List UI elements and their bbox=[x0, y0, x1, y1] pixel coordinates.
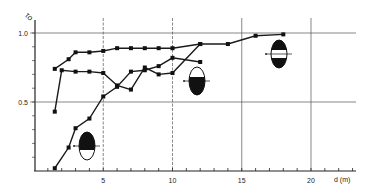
x-tick-label: 5 bbox=[101, 177, 105, 184]
data-point bbox=[101, 49, 105, 53]
data-point bbox=[74, 50, 78, 54]
chart: 51015200.51.0 τo d (m) bbox=[0, 0, 371, 195]
data-point bbox=[87, 70, 91, 74]
data-point bbox=[53, 67, 57, 71]
data-point bbox=[143, 46, 147, 50]
data-point bbox=[198, 60, 202, 64]
data-point bbox=[74, 70, 78, 74]
data-point bbox=[53, 166, 57, 170]
white-band-ellipse-icon bbox=[265, 40, 292, 72]
data-point bbox=[129, 88, 133, 92]
glyph-icons bbox=[73, 40, 292, 160]
data-point bbox=[171, 46, 175, 50]
y-tick-label: 0.5 bbox=[18, 99, 28, 106]
data-point bbox=[198, 42, 202, 46]
data-point bbox=[226, 42, 230, 46]
x-axis-label: d (m) bbox=[334, 176, 350, 184]
data-point bbox=[281, 32, 285, 36]
data-point bbox=[74, 126, 78, 130]
data-point bbox=[157, 46, 161, 50]
data-point bbox=[129, 46, 133, 50]
data-point bbox=[87, 117, 91, 121]
data-point bbox=[115, 85, 119, 89]
y-tick-label: 1.0 bbox=[18, 30, 28, 37]
data-point bbox=[101, 71, 105, 75]
data-point bbox=[60, 68, 64, 72]
data-point bbox=[143, 68, 147, 72]
x-tick-label: 20 bbox=[307, 177, 315, 184]
y-axis-label: τo bbox=[23, 11, 35, 23]
data-point bbox=[171, 71, 175, 75]
top-filled-ellipse-icon bbox=[73, 132, 100, 160]
data-point bbox=[53, 110, 57, 114]
bottom-filled-ellipse-icon bbox=[183, 67, 210, 95]
data-point bbox=[101, 94, 105, 98]
x-tick-label: 10 bbox=[169, 177, 177, 184]
data-point bbox=[254, 34, 258, 38]
x-tick-label: 15 bbox=[238, 177, 246, 184]
tick-labels: 51015200.51.0 bbox=[18, 30, 315, 185]
data-point bbox=[157, 72, 161, 76]
data-point bbox=[87, 50, 91, 54]
data-point bbox=[115, 46, 119, 50]
series-line-2 bbox=[55, 58, 200, 168]
data-point bbox=[129, 70, 133, 74]
data-point bbox=[157, 64, 161, 68]
data-point bbox=[171, 56, 175, 60]
data-point bbox=[67, 57, 71, 61]
data-point bbox=[67, 146, 71, 150]
